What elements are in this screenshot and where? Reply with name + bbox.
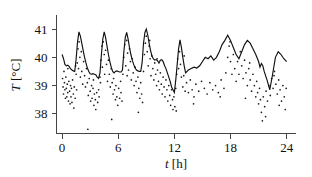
scatter-point [87,95,89,97]
scatter-point [118,88,120,90]
scatter-point [258,103,260,105]
scatter-point [95,109,97,111]
y-tick-label: 41 [35,22,48,37]
scatter-point [128,69,130,71]
scatter-point [227,56,229,58]
svg-text:t [h]: t [h] [165,156,187,171]
scatter-point [98,96,100,98]
scatter-point [76,62,78,64]
scatter-point [78,41,80,43]
scatter-point [193,103,195,105]
scatter-point [255,96,257,98]
scatter-point [183,55,185,57]
scatter-point [81,71,83,73]
scatter-point [168,85,170,87]
scatter-point [178,68,180,70]
scatter-point [78,68,80,70]
scatter-point [73,107,75,109]
scatter-point [84,75,86,77]
scatter-point [278,104,280,106]
scatter-point [127,52,129,54]
scatter-point [105,49,107,51]
scatter-point [90,100,92,102]
scatter-point [121,100,123,102]
scatter-point [165,79,167,81]
scatter-point [157,69,159,71]
x-tick-label: 24 [280,140,294,155]
scatter-point [254,85,256,87]
scatter-point [267,100,269,102]
scatter-point [93,104,95,106]
scatter-point [237,61,239,63]
x-tick-label: 12 [168,140,181,155]
scatter-point [153,79,155,81]
scatter-point [70,85,72,87]
scatter-point [96,92,98,94]
y-tick-label: 38 [35,106,48,121]
scatter-point [215,85,217,87]
scatter-point [198,90,200,92]
scatter-point [218,92,220,94]
scatter-point [188,92,190,94]
scatter-point [241,65,243,67]
scatter-point [257,92,259,94]
scatter-point [76,89,78,91]
scatter-point [74,97,76,99]
scatter-point [155,73,157,75]
scatter-point [82,83,84,85]
scatter-point [106,64,108,66]
scatter-point [249,62,251,64]
scatter-point [283,96,285,98]
scatter-point [97,102,99,104]
scatter-point [265,116,267,118]
scatter-point [145,35,147,37]
scatter-point [141,93,143,95]
scatter-point [115,85,117,87]
scatter-point [247,85,249,87]
scatter-point [169,95,171,97]
scatter-point [120,92,122,94]
scatter-point [80,51,82,53]
scatter-point [111,119,113,121]
scatter-point [223,88,225,90]
scatter-point [182,86,184,88]
scatter-point [79,56,81,58]
scatter-point [83,61,85,63]
scatter-point [113,78,115,80]
scatter-point [193,96,195,98]
scatter-point [265,90,267,92]
scatter-point [65,88,67,90]
scatter-point [136,92,138,94]
scatter-point [138,88,140,90]
scatter-point [65,76,67,78]
x-tick-label: 6 [115,140,122,155]
scatter-point [183,75,185,77]
scatter-point [282,85,284,87]
scatter-point [116,96,118,98]
scatter-point [89,90,91,92]
scatter-point [111,82,113,84]
scatter-point [248,68,250,70]
scatter-point [272,88,274,90]
scatter-point [63,71,65,73]
scatter-point [69,103,71,105]
scatter-point [166,89,168,91]
scatter-point [184,90,186,92]
scatter-point [175,110,177,112]
scatter-point [181,76,183,78]
scatter-point [275,83,277,85]
scatter-point [145,42,147,44]
scatter-point [245,97,247,99]
scatter-point [144,54,146,56]
y-axis-title: T [°C] [8,58,23,91]
scatter-point [66,83,68,85]
scatter-point [209,82,211,84]
scatter-point [75,73,77,75]
scatter-point [137,76,139,78]
scatter-point [132,72,134,74]
scatter-point [104,73,106,75]
scatter-point [150,75,152,77]
scatter-point [172,99,174,101]
scatter-point [64,82,66,84]
scatter-point [143,71,145,73]
